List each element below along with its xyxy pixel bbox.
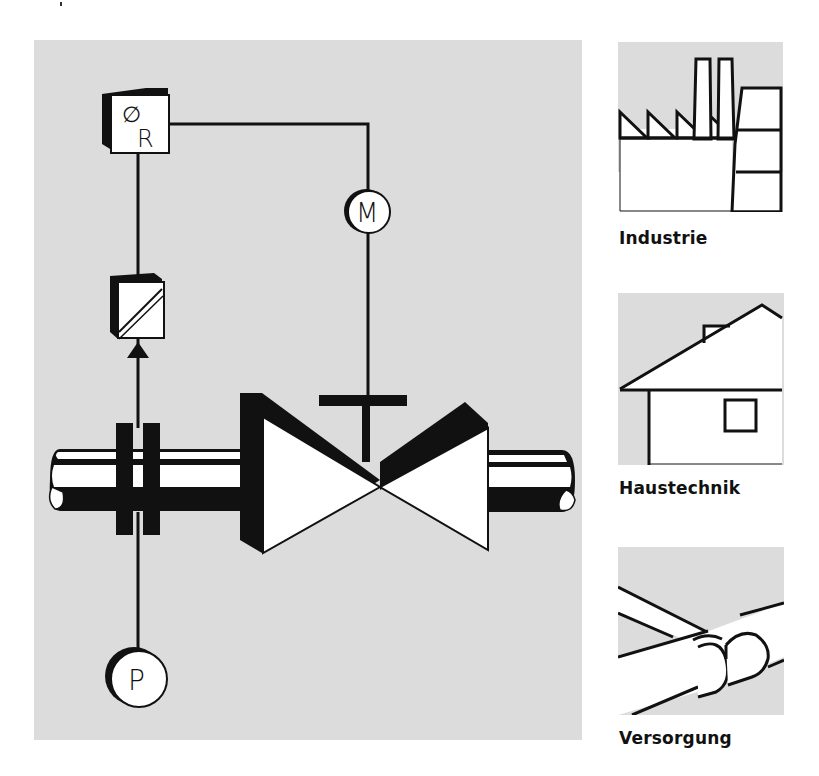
application-industrie: [618, 42, 784, 212]
controller-letter: R: [137, 125, 154, 153]
controller-box: ∅ R: [102, 88, 169, 153]
label-industrie: Industrie: [619, 228, 708, 248]
house-icon: [618, 293, 784, 465]
diameter-symbol: ∅: [122, 102, 141, 127]
factory-icon: [618, 42, 784, 212]
pipes-icon: [618, 547, 784, 715]
arrow-up-icon: [127, 342, 149, 358]
motor-letter: M: [356, 198, 378, 228]
application-haustechnik: [618, 293, 784, 465]
transmitter-box: [110, 273, 164, 339]
control-valve: [240, 393, 488, 553]
pressure-sensor-circle: P: [105, 647, 167, 707]
sensor-letter: P: [128, 664, 145, 697]
label-haustechnik: Haustechnik: [619, 478, 740, 498]
application-versorgung: [618, 547, 784, 715]
label-versorgung: Versorgung: [619, 728, 732, 748]
motor-circle: M: [344, 189, 390, 233]
pipe-right: [486, 450, 575, 512]
